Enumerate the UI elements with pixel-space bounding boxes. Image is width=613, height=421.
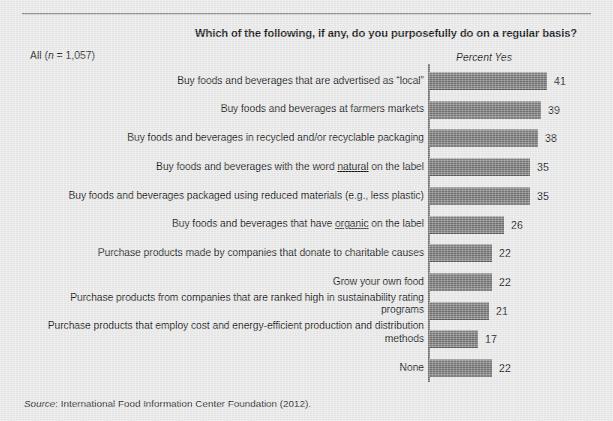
bar-chart-figure: Which of the following, if any, do you p… [0, 0, 613, 421]
bar-row: None22 [0, 355, 613, 381]
bar [429, 273, 492, 291]
bar-row-label: Buy foods and beverages packaged using r… [34, 190, 424, 202]
bar [429, 330, 478, 348]
source-note: Source: International Food Information C… [24, 398, 311, 409]
bar [429, 72, 547, 90]
bar-row: Buy foods and beverages packaged using r… [0, 183, 613, 209]
bar-row-label: Grow your own food [34, 276, 424, 288]
bar-value-label: 41 [554, 75, 566, 87]
bar-value-label: 22 [499, 247, 511, 259]
bar-row: Purchase products made by companies that… [0, 240, 613, 266]
bar-row-label: Buy foods and beverages with the word na… [34, 161, 424, 173]
bar [429, 359, 492, 377]
chart-title: Which of the following, if any, do you p… [180, 27, 592, 39]
bar-row: Buy foods and beverages in recycled and/… [0, 125, 613, 151]
bar-value-label: 35 [537, 161, 549, 173]
bar-row-label: Purchase products made by companies that… [34, 247, 424, 259]
axis-caption-percent-yes: Percent Yes [456, 52, 512, 63]
bar-row-label: None [34, 362, 424, 374]
top-divider-rule [22, 13, 591, 15]
bar-row-label: Buy foods and beverages that have organi… [34, 218, 424, 230]
bar [429, 101, 541, 119]
bar-value-label: 35 [537, 190, 549, 202]
bar [429, 187, 530, 205]
sample-size-note: All (n = 1,057) [30, 50, 95, 61]
bar-value-label: 17 [485, 333, 497, 345]
bar-value-label: 21 [496, 305, 508, 317]
bar-value-label: 22 [499, 276, 511, 288]
bar-row: Buy foods and beverages that are adverti… [0, 68, 613, 94]
bar-row-label: Purchase products that employ cost and e… [34, 320, 424, 345]
bar-value-label: 22 [499, 362, 511, 374]
sample-size-suffix: = 1,057) [54, 50, 95, 61]
bar-row-label: Purchase products from companies that ar… [34, 292, 424, 317]
bar [429, 302, 489, 320]
bar [429, 158, 530, 176]
sample-size-prefix: All ( [30, 50, 48, 61]
bar-row-label: Buy foods and beverages at farmers marke… [34, 103, 424, 115]
bar [429, 216, 504, 234]
bar-row: Buy foods and beverages with the word na… [0, 154, 613, 180]
bar-row-label: Buy foods and beverages in recycled and/… [34, 132, 424, 144]
bar-value-label: 38 [545, 132, 557, 144]
bar-value-label: 39 [548, 104, 560, 116]
bar-row: Buy foods and beverages that have organi… [0, 212, 613, 238]
source-word-italic: Source [24, 398, 55, 409]
source-text: : International Food Information Center … [55, 398, 311, 409]
bar-row-label: Buy foods and beverages that are adverti… [34, 75, 424, 87]
bar-value-label: 26 [511, 219, 523, 231]
bar-row: Purchase products that employ cost and e… [0, 326, 613, 352]
bar [429, 244, 492, 262]
bar [429, 129, 538, 147]
bar-row: Buy foods and beverages at farmers marke… [0, 97, 613, 123]
